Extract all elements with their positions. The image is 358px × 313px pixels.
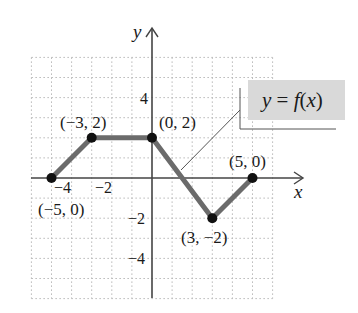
function-label: y = f(x) [260, 88, 323, 112]
function-graph: x y −4 −2 4 −2 −4 y = f(x) (−5, 0) (−3, … [0, 0, 358, 313]
y-tick-4: 4 [140, 90, 148, 107]
data-point-marker [147, 133, 157, 143]
data-point-marker [248, 173, 258, 183]
point-label-neg3-2: (−3, 2) [60, 113, 106, 132]
x-tick-neg4: −4 [54, 179, 71, 196]
point-label-5-0: (5, 0) [229, 152, 266, 171]
point-label-0-2: (0, 2) [159, 113, 196, 132]
y-tick-neg4: −4 [128, 250, 145, 267]
y-axis-label: y [131, 21, 142, 42]
x-tick-neg2: −2 [95, 179, 112, 196]
point-label-neg5-0: (−5, 0) [38, 200, 84, 219]
data-point-marker [207, 213, 217, 223]
y-tick-neg2: −2 [128, 210, 145, 227]
x-axis-label: x [293, 181, 303, 202]
data-point-marker [47, 173, 57, 183]
data-point-marker [87, 133, 97, 143]
point-label-3-neg2: (3, −2) [181, 228, 227, 247]
